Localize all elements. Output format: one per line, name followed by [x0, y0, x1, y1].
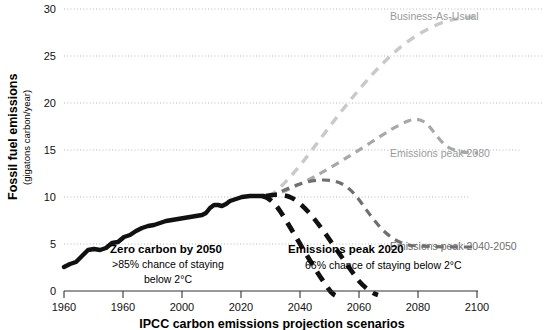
annotation-zero-carbon-sub2: below 2°C — [144, 273, 192, 285]
xtick-label-5: 2060 — [347, 301, 371, 313]
ytick-label-15: 15 — [44, 144, 56, 156]
xtick-label-1: 1960 — [111, 301, 135, 313]
annotation-zero-carbon-sub1: >85% chance of staying — [112, 258, 224, 270]
ytick-label-25: 25 — [44, 50, 56, 62]
chart-background — [0, 0, 544, 330]
xtick-label-3: 2020 — [229, 301, 253, 313]
annotation-peak2020-title: Emissions peak 2020 — [288, 243, 404, 255]
xtick-label-2: 2000 — [170, 301, 194, 313]
series-label-business-as-usual: Business-As-Usual — [390, 10, 479, 22]
ytick-label-30: 30 — [44, 3, 56, 15]
chart-figure: 30 25 20 15 10 5 0 Fossil fuel emissions… — [0, 0, 544, 330]
ytick-label-0: 0 — [50, 285, 56, 297]
y-axis-title-sub: (gigatons carbon/year) — [21, 90, 32, 185]
ytick-label-10: 10 — [44, 191, 56, 203]
emissions-projection-chart: 30 25 20 15 10 5 0 Fossil fuel emissions… — [0, 0, 544, 330]
annotation-peak2020-sub: 66% chance of staying below 2°C — [305, 259, 462, 271]
xtick-label-7: 2100 — [465, 301, 489, 313]
annotation-zero-carbon-title: Zero carbon by 2050 — [110, 243, 222, 255]
series-label-emissions-peak-2080: Emissions peak 2080 — [390, 147, 490, 159]
series-label-emissions-peak-2040-2050: Emissions peak 2040-2050 — [390, 240, 517, 252]
xtick-label-6: 2080 — [406, 301, 430, 313]
xtick-label-0: 1960 — [52, 301, 76, 313]
x-axis-title: IPCC carbon emissions projection scenari… — [139, 317, 404, 330]
y-axis-title-main: Fossil fuel emissions — [6, 74, 20, 200]
ytick-label-20: 20 — [44, 97, 56, 109]
y-axis-title: Fossil fuel emissions (gigatons carbon/y… — [6, 74, 32, 200]
ytick-label-5: 5 — [50, 238, 56, 250]
xtick-label-4: 2040 — [288, 301, 312, 313]
